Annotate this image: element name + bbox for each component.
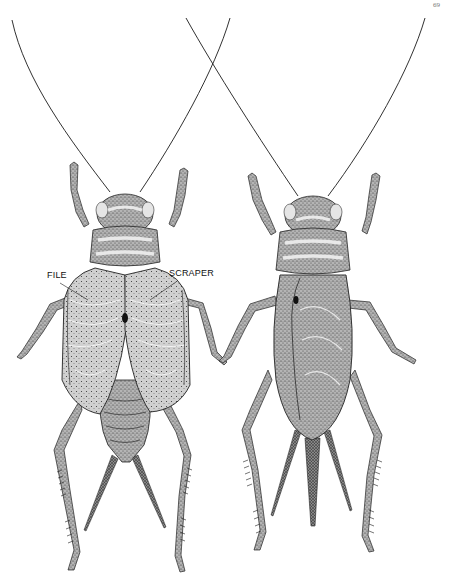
pronotum bbox=[276, 228, 350, 274]
right-cercus bbox=[324, 430, 352, 511]
right-cercus bbox=[132, 455, 166, 528]
left-eye bbox=[96, 202, 108, 218]
page-number: 69 bbox=[433, 1, 441, 9]
scraper-label: SCRAPER bbox=[169, 268, 214, 278]
cricket-illustration: 69 bbox=[0, 0, 451, 579]
left-eye bbox=[284, 204, 296, 220]
right-eye bbox=[330, 204, 342, 220]
right-eye bbox=[142, 202, 154, 218]
left-cercus bbox=[271, 430, 301, 516]
forewings bbox=[274, 275, 353, 440]
left-cercus bbox=[84, 455, 118, 531]
pronotum bbox=[90, 226, 160, 266]
right-antenna bbox=[140, 18, 230, 192]
left-antenna bbox=[186, 18, 298, 196]
ovipositor bbox=[305, 438, 320, 526]
file-label: FILE bbox=[47, 270, 67, 280]
left-antenna bbox=[12, 20, 110, 192]
female-cricket bbox=[186, 18, 425, 552]
right-antenna bbox=[328, 18, 425, 196]
male-cricket: FILE SCRAPER bbox=[12, 18, 230, 572]
